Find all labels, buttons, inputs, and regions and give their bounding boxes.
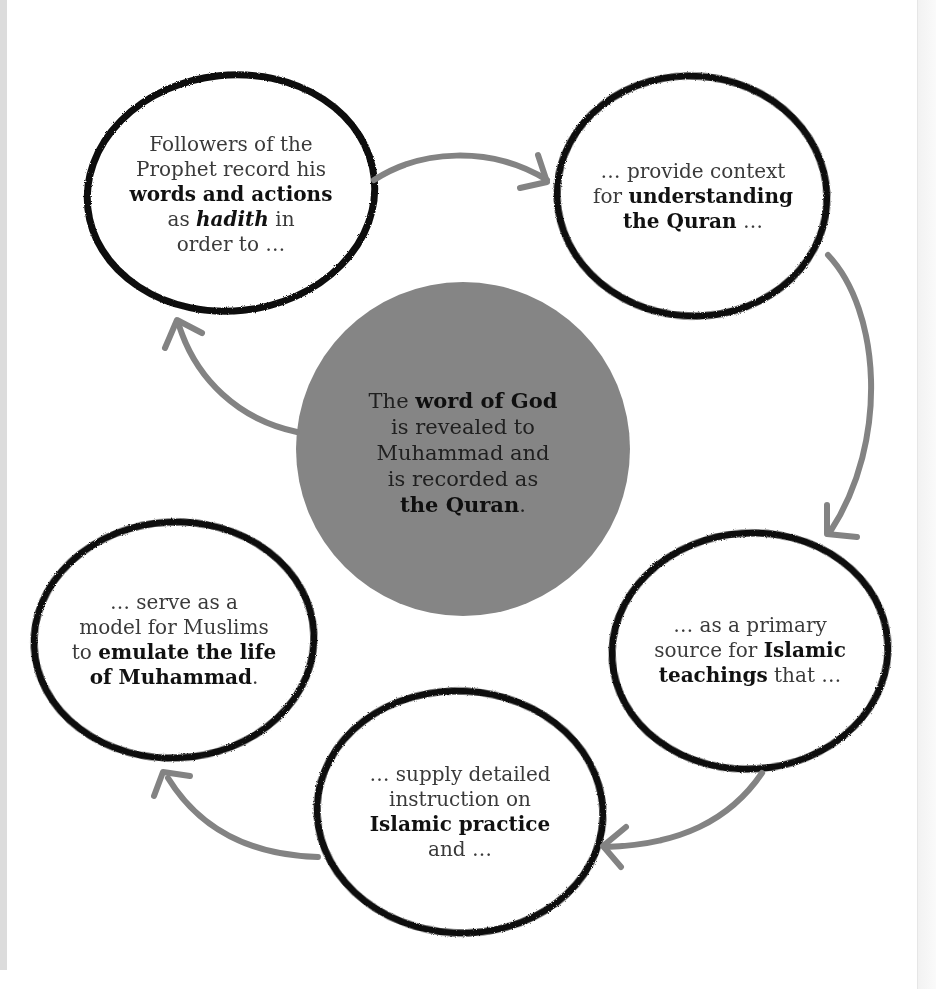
node-line: teachings that … bbox=[654, 663, 846, 688]
node-source: … as a primary source for Islamic teachi… bbox=[612, 535, 888, 765]
node-line: … as a primary bbox=[654, 613, 846, 638]
node-line: … provide context bbox=[593, 159, 793, 184]
node-practice: … supply detailed instruction on Islamic… bbox=[318, 692, 602, 932]
node-line: Followers of the bbox=[130, 132, 333, 157]
node-line: model for Muslims bbox=[72, 615, 276, 640]
arrow-context-to-source bbox=[827, 255, 871, 537]
node-line: of Muhammad. bbox=[72, 665, 276, 690]
node-line: for understanding bbox=[593, 184, 793, 209]
node-hadith-text: Followers of the Prophet record his word… bbox=[130, 132, 333, 257]
center-line: Muhammad and bbox=[369, 440, 558, 466]
arrow-source-to-practice bbox=[603, 773, 762, 867]
node-line: order to … bbox=[130, 232, 333, 257]
center-line: The word of God bbox=[369, 388, 558, 414]
node-line: the Quran … bbox=[593, 209, 793, 234]
node-line: words and actions bbox=[130, 182, 333, 207]
node-context-text: … provide context for understanding the … bbox=[593, 159, 793, 234]
node-line: as hadith in bbox=[130, 207, 333, 232]
node-model: … serve as a model for Muslims to emulat… bbox=[34, 522, 314, 758]
center-line: is recorded as bbox=[369, 466, 558, 492]
node-line: Prophet record his bbox=[130, 157, 333, 182]
node-line: … serve as a bbox=[72, 590, 276, 615]
node-practice-text: … supply detailed instruction on Islamic… bbox=[369, 762, 550, 862]
arrow-center-to-hadith bbox=[165, 320, 297, 432]
node-hadith: Followers of the Prophet record his word… bbox=[92, 80, 370, 308]
node-context: … provide context for understanding the … bbox=[558, 80, 828, 312]
node-line: to emulate the life bbox=[72, 640, 276, 665]
node-line: and … bbox=[369, 837, 550, 862]
arrow-practice-to-model bbox=[154, 772, 318, 857]
center-line: is revealed to bbox=[369, 414, 558, 440]
node-line: … supply detailed bbox=[369, 762, 550, 787]
node-source-text: … as a primary source for Islamic teachi… bbox=[654, 613, 846, 688]
node-line: source for Islamic bbox=[654, 638, 846, 663]
arrow-hadith-to-context bbox=[374, 155, 547, 188]
node-line: Islamic practice bbox=[369, 812, 550, 837]
center-node-text: The word of God is revealed to Muhammad … bbox=[369, 388, 558, 518]
center-node: The word of God is revealed to Muhammad … bbox=[300, 290, 626, 616]
center-line: the Quran. bbox=[369, 492, 558, 518]
node-line: instruction on bbox=[369, 787, 550, 812]
node-model-text: … serve as a model for Muslims to emulat… bbox=[72, 590, 276, 690]
